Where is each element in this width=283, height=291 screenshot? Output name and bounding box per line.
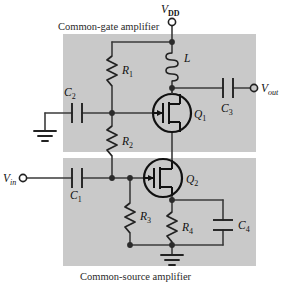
node-r4-bottom <box>169 242 175 248</box>
node-source2 <box>169 197 175 203</box>
common-gate-block <box>63 34 256 152</box>
node-vdd <box>169 39 175 45</box>
node-r3-bottom <box>127 242 133 248</box>
schematic-canvas: VDD Vout Vin R1 R2 R3 R4 C1 C2 C3 C4 L Q <box>0 0 283 291</box>
label-vin: Vin <box>3 172 16 187</box>
node-gate1 <box>109 110 115 116</box>
terminal-vin[interactable] <box>19 174 26 181</box>
node-gate2 <box>127 175 133 181</box>
node-drain-out <box>169 85 175 91</box>
title-common-source: Common-source amplifier <box>80 271 192 282</box>
terminal-vout[interactable] <box>250 84 257 91</box>
ground-left-icon <box>34 131 56 141</box>
label-vdd: VDD <box>161 3 180 18</box>
label-l: L <box>183 52 190 64</box>
circuit-figure: VDD Vout Vin R1 R2 R3 R4 C1 C2 C3 C4 L Q <box>0 0 283 291</box>
node-r2-bottom <box>109 175 115 181</box>
title-common-gate: Common-gate amplifier <box>58 21 160 32</box>
label-vout: Vout <box>261 82 279 97</box>
terminal-vdd[interactable] <box>168 18 175 25</box>
